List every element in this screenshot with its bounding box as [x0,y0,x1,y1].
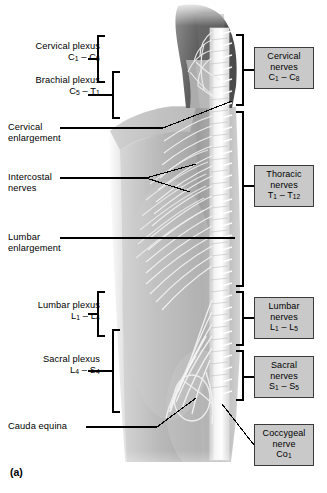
label-sacral-plexus: Sacral plexus L4 – S4 [8,354,100,377]
box-cervical-nerves-range: C1 – C8 [255,72,313,85]
label-cauda-equina: Cauda equina [8,421,86,432]
box-coccygeal-nerve-range: Co1 [255,449,313,462]
label-cervical-enlargement: Cervical enlargement [8,122,62,144]
box-lumbar-nerves-range: L1 – L5 [255,322,313,335]
label-lumbar-enlargement: Lumbar enlargement [8,232,62,254]
box-cervical-nerves: Cervical nerves C1 – C8 [254,47,314,89]
figure-canvas: Cervical plexus C1 – C5 Brachial plexus … [0,0,327,493]
label-lumbar-plexus: Lumbar plexus L1 – L4 [8,300,100,323]
box-coccygeal-nerve: Coccygeal nerve Co1 [254,424,314,466]
label-cervical-plexus-range: C1 – C5 [8,52,100,64]
label-cervical-plexus: Cervical plexus C1 – C5 [8,41,100,64]
label-intercostal-nerves: Intercostal nerves [8,172,62,194]
box-lumbar-nerves: Lumbar nerves L1 – L5 [254,297,314,339]
box-thoracic-nerves: Thoracic nerves T1 – T12 [254,165,314,207]
panel-tag: (a) [10,466,23,478]
label-sacral-plexus-range: L4 – S4 [8,365,100,377]
box-sacral-nerves-range: S1 – S5 [255,381,313,394]
label-lumbar-plexus-range: L1 – L4 [8,311,100,323]
label-lumbar-plexus-title: Lumbar plexus [8,300,100,311]
label-brachial-plexus-range: C5 – T1 [8,86,100,98]
label-cervical-plexus-title: Cervical plexus [8,41,100,52]
label-sacral-plexus-title: Sacral plexus [8,354,100,365]
box-thoracic-nerves-range: T1 – T12 [255,190,313,203]
vertebral-column [210,28,232,460]
box-sacral-nerves: Sacral nerves S1 – S5 [254,356,314,398]
label-brachial-plexus: Brachial plexus C5 – T1 [8,75,100,98]
label-brachial-plexus-title: Brachial plexus [8,75,100,86]
